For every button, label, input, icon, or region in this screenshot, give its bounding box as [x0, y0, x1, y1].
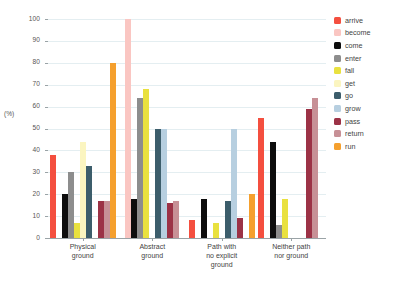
- bar-go: [86, 166, 92, 238]
- y-tick-mark: [45, 150, 48, 151]
- bar-fall: [282, 199, 288, 238]
- legend-item-label: come: [345, 41, 363, 50]
- x-axis-label-line: nor ground: [251, 252, 333, 261]
- y-axis-title: (%): [4, 110, 14, 117]
- bar-pass: [237, 218, 243, 238]
- y-tick-label: 30: [10, 169, 40, 176]
- y-tick-label: 60: [10, 103, 40, 110]
- bar-fall: [143, 89, 149, 238]
- x-tick-mark: [222, 238, 223, 241]
- legend-item-label: go: [345, 91, 353, 100]
- legend-item-return[interactable]: return: [334, 127, 392, 140]
- legend-item-label: enter: [345, 54, 361, 63]
- bar-arrive: [258, 118, 264, 238]
- legend-swatch-icon: [334, 118, 341, 125]
- legend-swatch-icon: [334, 17, 341, 24]
- bar-group-bars: [189, 19, 255, 238]
- bar-arrive: [189, 220, 195, 238]
- legend-item-come[interactable]: come: [334, 39, 392, 52]
- y-tick-label: 50: [10, 125, 40, 132]
- legend-swatch-icon: [334, 42, 341, 49]
- plot-area: 0102030405060708090100PhysicalgroundAbst…: [48, 19, 326, 238]
- legend-item-arrive[interactable]: arrive: [334, 14, 392, 27]
- bar-group: [258, 19, 324, 238]
- bar-return: [173, 201, 179, 238]
- y-tick-mark: [45, 63, 48, 64]
- legend-swatch-icon: [334, 92, 341, 99]
- bar-group: [189, 19, 255, 238]
- y-tick-label: 20: [10, 191, 40, 198]
- legend-item-go[interactable]: go: [334, 90, 392, 103]
- y-tick-label: 100: [10, 16, 40, 23]
- x-tick-mark: [152, 238, 153, 241]
- y-tick-mark: [45, 238, 48, 239]
- bar-group: [50, 19, 116, 238]
- legend-swatch-icon: [334, 130, 341, 137]
- y-tick-label: 10: [10, 213, 40, 220]
- legend-item-label: pass: [345, 117, 360, 126]
- y-tick-mark: [45, 19, 48, 20]
- legend-item-grow[interactable]: grow: [334, 102, 392, 115]
- legend-item-label: arrive: [345, 16, 363, 25]
- legend-swatch-icon: [334, 105, 341, 112]
- y-tick-mark: [45, 216, 48, 217]
- bar-fall: [213, 223, 219, 238]
- bar-run: [249, 194, 255, 238]
- chart-legend: arrivebecomecomeenterfallgetgogrowpassre…: [334, 14, 392, 153]
- bar-come: [270, 142, 276, 238]
- legend-item-pass[interactable]: pass: [334, 115, 392, 128]
- x-axis-label-line: Neither path: [251, 243, 333, 252]
- y-tick-mark: [45, 129, 48, 130]
- legend-item-label: return: [345, 129, 364, 138]
- y-tick-mark: [45, 41, 48, 42]
- bar-chart: (%) 0102030405060708090100Physicalground…: [0, 0, 395, 282]
- y-tick-mark: [45, 85, 48, 86]
- legend-item-enter[interactable]: enter: [334, 52, 392, 65]
- bar-come: [201, 199, 207, 238]
- y-tick-mark: [45, 107, 48, 108]
- y-tick-label: 90: [10, 37, 40, 44]
- legend-item-run[interactable]: run: [334, 140, 392, 153]
- bar-run: [110, 63, 116, 238]
- bar-group-bars: [119, 19, 185, 238]
- x-tick-mark: [291, 238, 292, 241]
- y-tick-label: 70: [10, 81, 40, 88]
- y-tick-label: 40: [10, 147, 40, 154]
- legend-item-get[interactable]: get: [334, 77, 392, 90]
- legend-item-label: become: [345, 28, 371, 37]
- axis-baseline: [48, 238, 326, 239]
- x-axis-label: Neither pathnor ground: [251, 243, 333, 261]
- legend-item-label: fall: [345, 66, 354, 75]
- legend-item-become[interactable]: become: [334, 27, 392, 40]
- legend-swatch-icon: [334, 55, 341, 62]
- x-tick-mark: [83, 238, 84, 241]
- y-tick-label: 0: [10, 235, 40, 242]
- bar-group-bars: [258, 19, 324, 238]
- x-axis-label-line: ground: [181, 261, 263, 270]
- legend-item-label: get: [345, 79, 355, 88]
- legend-swatch-icon: [334, 67, 341, 74]
- bar-group-bars: [50, 19, 116, 238]
- bar-arrive: [50, 155, 56, 238]
- y-tick-label: 80: [10, 59, 40, 66]
- y-tick-mark: [45, 172, 48, 173]
- bar-group: [119, 19, 185, 238]
- bar-return: [312, 98, 318, 238]
- y-tick-mark: [45, 194, 48, 195]
- legend-item-label: grow: [345, 104, 361, 113]
- legend-swatch-icon: [334, 143, 341, 150]
- legend-swatch-icon: [334, 80, 341, 87]
- legend-item-label: run: [345, 142, 355, 151]
- legend-item-fall[interactable]: fall: [334, 64, 392, 77]
- legend-swatch-icon: [334, 29, 341, 36]
